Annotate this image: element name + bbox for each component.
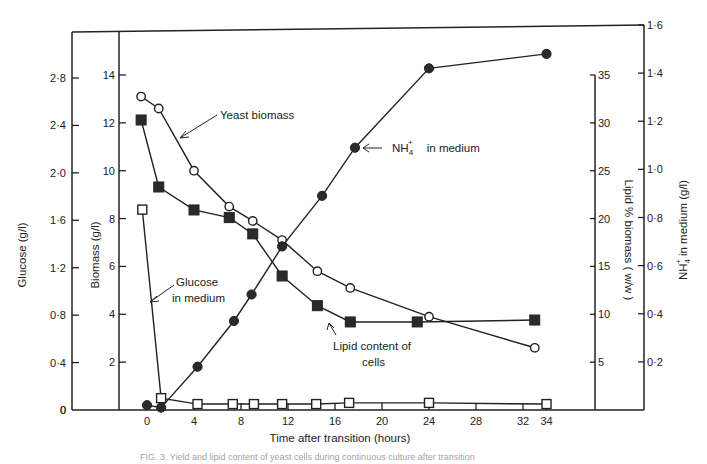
data-point [313, 267, 321, 275]
data-point [193, 400, 202, 409]
data-point [542, 49, 551, 58]
data-point [345, 317, 355, 327]
biomass-tick-label: 14 [103, 69, 115, 81]
biomass-tick-label: 10 [103, 165, 115, 177]
dual-axis-line-chart: 00·40·81·21·62·02·42·80 2468101214 51015… [0, 0, 707, 464]
data-point [247, 290, 256, 299]
biomass-tick-label: 12 [103, 117, 115, 129]
data-point [142, 401, 151, 410]
glucose-tick-label: 1·2 [50, 262, 66, 274]
lipid-tick-label: 35 [598, 69, 610, 81]
glucose-tick-label: 2·8 [50, 72, 66, 84]
biomass-axis-label: Biomass (g/l) [89, 221, 101, 288]
nh4-tick-label: 0·6 [647, 260, 663, 272]
glucose-tick-label: 0·4 [50, 357, 66, 369]
lipid-axis: 5101520253035 [590, 69, 610, 368]
time-tick-label: 16 [329, 415, 341, 427]
biomass-tick-label: 8 [109, 213, 115, 225]
lipid-axis-label: Lipid % biomass ( w/w ) [623, 180, 635, 301]
data-point [317, 191, 326, 200]
data-point [312, 301, 322, 311]
data-point [155, 104, 163, 112]
glucose-tick-label: 0·8 [50, 309, 66, 321]
annotation-nh4: NH4+in medium [392, 138, 480, 157]
time-tick-label: 8 [238, 415, 244, 427]
data-point [425, 312, 433, 320]
nh4-axis: 0·20·40·60·81·01·21·41·6 [638, 19, 663, 368]
plot-frame [72, 25, 644, 410]
glucose-axis-label: Glucose (g/l) [16, 222, 28, 287]
data-point [228, 400, 237, 409]
lipid-tick-label: 20 [598, 213, 610, 225]
lipid-tick-label: 30 [598, 117, 610, 129]
annotation-lipid-line1: Lipid content of [333, 340, 412, 352]
time-tick-label: 28 [470, 415, 482, 427]
data-point [425, 398, 434, 407]
lipid-tick-label: 5 [598, 356, 604, 368]
annotation-glucose-line2: in medium [172, 292, 225, 304]
lipid-tick-label: 10 [598, 308, 610, 320]
time-tick-label: 4 [191, 415, 197, 427]
nh4-tick-label: 0·8 [647, 212, 663, 224]
glucose-tick-label: 0 [60, 404, 66, 416]
data-point [136, 115, 146, 125]
annotation-glucose-line1: Glucose [176, 276, 218, 288]
data-point [277, 271, 287, 281]
series-nh4-in-medium [142, 49, 551, 412]
data-point [249, 217, 257, 225]
nh4-tick-label: 1·2 [647, 115, 663, 127]
annotation-lipid-line2: cells [362, 356, 385, 368]
time-tick-label: 24 [423, 415, 435, 427]
data-point [424, 64, 433, 73]
series-glucose-in-medium [138, 205, 551, 408]
data-point [137, 92, 145, 100]
data-point [248, 229, 258, 239]
data-point [154, 182, 164, 192]
data-point [345, 398, 354, 407]
data-point [225, 202, 233, 210]
nh4-tick-label: 1·4 [647, 67, 663, 79]
series-layer [136, 49, 551, 412]
biomass-tick-label: 2 [109, 356, 115, 368]
data-point [189, 205, 199, 215]
nh4-tick-label: 1·0 [647, 163, 663, 175]
annotation-yeast-biomass: Yeast biomass [220, 109, 295, 121]
figure-caption: FIG. 3. Yield and lipid content of yeast… [140, 452, 700, 462]
nh4-tick-label: 0·2 [647, 356, 663, 368]
biomass-axis: 2468101214 [103, 69, 126, 368]
biomass-tick-label: 6 [109, 260, 115, 272]
data-point [157, 394, 166, 403]
glucose-tick-label: 2·4 [50, 119, 66, 131]
time-tick-label: 12 [282, 415, 294, 427]
glucose-axis: 00·40·81·21·62·02·42·80 [50, 72, 79, 416]
data-point [412, 317, 422, 327]
data-point [224, 213, 234, 223]
data-point [350, 143, 359, 152]
data-point [138, 205, 147, 214]
time-tick-label: 32 [517, 415, 529, 427]
data-point [530, 315, 540, 325]
glucose-tick-label: 2·0 [50, 167, 66, 179]
data-point [531, 344, 539, 352]
data-point [229, 316, 238, 325]
nh4-axis-label: NH4+ in medium (g/l) [674, 180, 692, 280]
data-point [542, 400, 551, 409]
lipid-tick-label: 15 [598, 260, 610, 272]
data-point [190, 167, 198, 175]
time-tick-label: 20 [376, 415, 388, 427]
series-yeast-biomass [137, 92, 539, 352]
time-tick-label: 34 [540, 415, 552, 427]
data-point [278, 400, 287, 409]
data-point [157, 403, 166, 412]
data-point [193, 362, 202, 371]
data-point [312, 400, 321, 409]
x-axis-label: Time after transition (hours) [270, 432, 411, 444]
data-point [346, 284, 354, 292]
nh4-tick-label: 1·6 [647, 19, 663, 31]
glucose-tick-label: 1·6 [50, 214, 66, 226]
nh4-tick-label: 0·4 [647, 308, 663, 320]
data-point [249, 400, 258, 409]
biomass-tick-label: 4 [109, 308, 115, 320]
data-point [278, 242, 287, 251]
time-tick-label: 0 [144, 415, 150, 427]
